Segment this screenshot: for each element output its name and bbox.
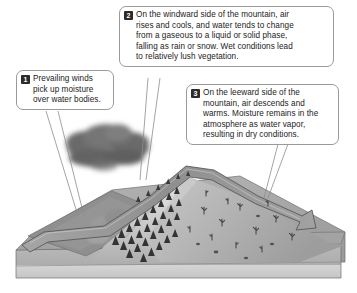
callout-3-line-5: resulting in dry conditions. bbox=[191, 130, 333, 141]
figure-root: 1 Prevailing winds pick up moisture over… bbox=[0, 0, 357, 293]
callout-2-line-2: rises and cools, and water tends to chan… bbox=[124, 21, 328, 32]
callout-2-line-3: from a gaseous to a liquid or solid phas… bbox=[124, 31, 328, 42]
callout-1-line-3: over water bodies. bbox=[21, 95, 108, 106]
callout-windward-side[interactable]: 2 On the windward side of the mountain, … bbox=[119, 6, 334, 67]
callout-3-text-1: On the leeward side of the bbox=[203, 88, 300, 99]
leader-line-2b bbox=[146, 78, 160, 180]
callout-2-text-1: On the windward side of the mountain, ai… bbox=[136, 10, 289, 21]
callout-3-line-3: warms. Moisture remains in the bbox=[191, 109, 333, 120]
callout-3-line-2: mountain, air descends and bbox=[191, 99, 333, 110]
callout-3-line-1: 3 On the leeward side of the bbox=[191, 88, 333, 99]
callout-1-line-1: 1 Prevailing winds bbox=[21, 74, 108, 85]
callout-2-line-1: 2 On the windward side of the mountain, … bbox=[124, 10, 328, 21]
callout-badge-3: 3 bbox=[191, 89, 200, 98]
callout-2-line-5: to relatively lush vegetation. bbox=[124, 52, 328, 63]
callout-leeward-side[interactable]: 3 On the leeward side of the mountain, a… bbox=[186, 84, 339, 145]
callout-prevailing-winds[interactable]: 1 Prevailing winds pick up moisture over… bbox=[16, 70, 114, 110]
callout-badge-1: 1 bbox=[21, 75, 30, 84]
callout-1-line-2: pick up moisture bbox=[21, 85, 108, 96]
callout-2-line-4: falling as rain or snow. Wet conditions … bbox=[124, 42, 328, 53]
rain-cloud bbox=[66, 124, 149, 171]
callout-3-line-4: atmosphere as water vapor, bbox=[191, 120, 333, 131]
callout-badge-2: 2 bbox=[124, 11, 133, 20]
callout-1-text-1: Prevailing winds bbox=[33, 74, 93, 85]
leader-line-2a bbox=[140, 78, 148, 180]
